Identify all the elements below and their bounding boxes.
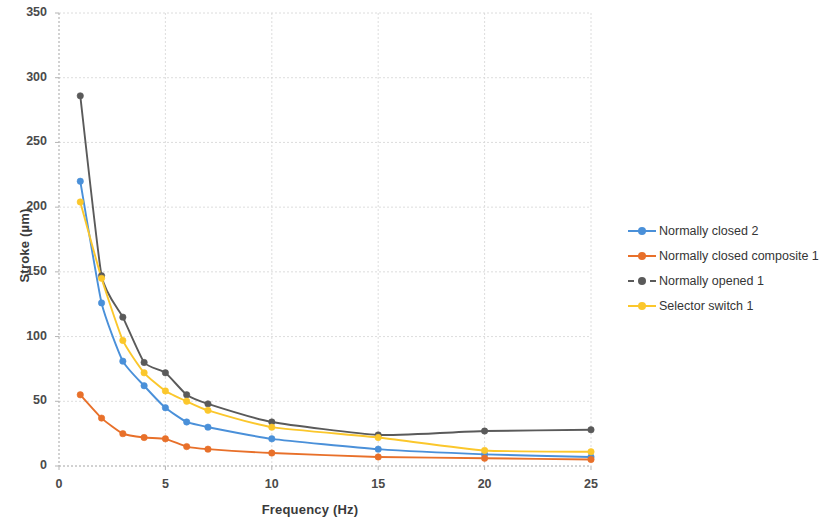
data-point	[162, 405, 168, 411]
legend-label: Normally closed composite 1	[659, 249, 819, 263]
data-point	[120, 430, 126, 436]
series-line-1	[80, 395, 591, 460]
data-point	[183, 443, 189, 449]
data-point	[269, 450, 275, 456]
legend-marker-icon	[628, 224, 656, 238]
data-point	[375, 446, 381, 452]
data-point	[98, 275, 104, 281]
y-tick-label: 100	[7, 329, 47, 343]
data-point	[205, 424, 211, 430]
data-point	[205, 401, 211, 407]
data-point	[588, 427, 594, 433]
y-tick-label: 0	[7, 458, 47, 472]
data-point	[77, 199, 83, 205]
legend-marker-icon	[628, 274, 656, 288]
y-tick-label: 350	[7, 5, 47, 19]
x-axis-title: Frequency (Hz)	[0, 502, 620, 517]
legend-item-3[interactable]: Selector switch 1	[628, 293, 818, 318]
chart-legend: Normally closed 2Normally closed composi…	[628, 218, 818, 318]
data-point	[141, 370, 147, 376]
data-point	[98, 300, 104, 306]
data-point	[162, 436, 168, 442]
data-point	[141, 434, 147, 440]
x-tick-label: 20	[465, 477, 505, 491]
series-line-0	[80, 181, 591, 457]
data-point	[183, 392, 189, 398]
legend-marker-icon	[628, 249, 656, 263]
data-point	[481, 447, 487, 453]
legend-marker-icon	[628, 299, 656, 313]
data-point	[77, 93, 83, 99]
legend-item-1[interactable]: Normally closed composite 1	[628, 243, 818, 268]
data-point	[481, 428, 487, 434]
legend-label: Selector switch 1	[659, 299, 753, 313]
data-point	[98, 415, 104, 421]
x-tick-label: 10	[252, 477, 292, 491]
data-point	[269, 424, 275, 430]
data-point	[269, 436, 275, 442]
stroke-vs-frequency-chart: Stroke (µm) Frequency (Hz) 0501001502002…	[0, 0, 821, 523]
data-point	[162, 370, 168, 376]
data-point	[77, 392, 83, 398]
y-tick-label: 200	[7, 199, 47, 213]
x-tick-label: 5	[145, 477, 185, 491]
data-point	[120, 337, 126, 343]
legend-label: Normally opened 1	[659, 274, 764, 288]
data-point	[205, 446, 211, 452]
legend-label: Normally closed 2	[659, 224, 758, 238]
x-tick-label: 0	[39, 477, 79, 491]
data-point	[141, 383, 147, 389]
x-tick-label: 25	[571, 477, 611, 491]
data-point	[120, 358, 126, 364]
data-point	[183, 398, 189, 404]
gridlines	[59, 13, 591, 466]
data-point	[162, 388, 168, 394]
series-points	[77, 93, 594, 463]
data-point	[588, 456, 594, 462]
data-point	[141, 359, 147, 365]
x-tick-label: 15	[358, 477, 398, 491]
data-point	[481, 455, 487, 461]
legend-item-0[interactable]: Normally closed 2	[628, 218, 818, 243]
y-tick-label: 300	[7, 70, 47, 84]
data-point	[205, 407, 211, 413]
series-line-3	[80, 202, 591, 452]
y-tick-label: 250	[7, 134, 47, 148]
data-point	[588, 449, 594, 455]
legend-item-2[interactable]: Normally opened 1	[628, 268, 818, 293]
series-lines	[80, 96, 591, 460]
data-point	[120, 314, 126, 320]
y-tick-label: 50	[7, 393, 47, 407]
data-point	[375, 434, 381, 440]
data-point	[183, 419, 189, 425]
data-point	[77, 178, 83, 184]
data-point	[375, 454, 381, 460]
y-tick-label: 150	[7, 264, 47, 278]
